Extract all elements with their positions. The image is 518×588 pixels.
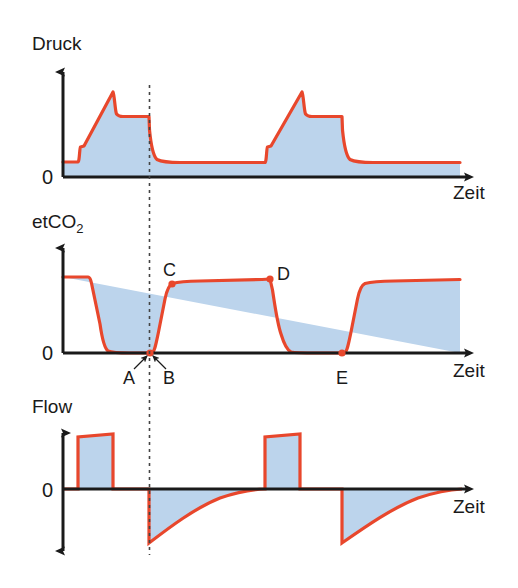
marker-dot-e: [338, 349, 345, 356]
marker-leader-a: [134, 356, 147, 369]
pressure-zero-label: 0: [42, 166, 53, 188]
marker-label-a: A: [123, 368, 135, 388]
ventilation-waveform-figure: Druck Zeit 0 etCO2 Zeit 0 A B C D E: [0, 0, 518, 588]
marker-label-e: E: [336, 368, 348, 388]
etco2-zero-label: 0: [42, 342, 53, 364]
flow-curve-fill-2: [265, 434, 300, 489]
etco2-x-axis-label: Zeit: [453, 360, 485, 381]
flow-zero-label: 0: [42, 479, 53, 501]
marker-dot-d: [266, 275, 273, 282]
marker-label-c: C: [163, 260, 176, 280]
pressure-y-axis-label: Druck: [32, 33, 82, 54]
pressure-curve-fill: [63, 92, 460, 177]
flow-curve-fill: [78, 434, 113, 489]
pressure-panel: Druck Zeit 0: [32, 33, 485, 203]
etco2-curve-fill: [63, 277, 460, 353]
pressure-x-axis-label: Zeit: [453, 182, 485, 203]
etco2-y-axis-label-main: etCO: [32, 211, 76, 232]
marker-label-b: B: [163, 368, 175, 388]
flow-y-axis-label: Flow: [32, 396, 72, 417]
flow-curve-fill-exp-2: [342, 489, 460, 543]
marker-label-d: D: [277, 264, 290, 284]
etco2-panel: etCO2 Zeit 0 A B C D E: [32, 211, 485, 388]
flow-x-axis-label: Zeit: [453, 496, 485, 517]
marker-dot-c: [168, 280, 175, 287]
etco2-y-axis-label: etCO2: [32, 211, 84, 236]
flow-curve-fill-exp-1: [149, 489, 265, 543]
etco2-y-axis-label-sub: 2: [76, 221, 83, 236]
flow-panel: Flow Zeit 0: [32, 396, 485, 551]
